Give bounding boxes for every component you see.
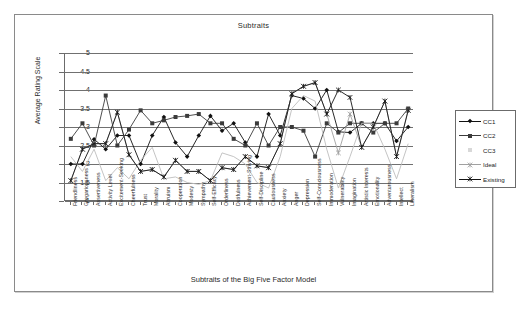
x-axis-tick	[70, 201, 71, 205]
x-axis-tick	[384, 201, 385, 205]
legend-item-label: CC3	[483, 147, 495, 154]
legend-item-ideal[interactable]: Ideal	[459, 158, 515, 173]
x-axis-category-label: Morality	[153, 187, 159, 206]
x-axis-category-label: Altruism	[165, 186, 171, 206]
y-axis-title: Average Rating Scale	[34, 36, 41, 146]
series-cc2	[69, 94, 410, 159]
x-axis-tick	[314, 201, 315, 205]
x-axis-category-label: Cautiousness	[270, 173, 276, 206]
legend-item-cc3[interactable]: CC3	[459, 143, 515, 158]
x-axis-tick	[233, 201, 234, 205]
x-axis-category-label: Self-Discipline	[258, 172, 264, 206]
x-axis-category-label: Emotionality	[374, 177, 380, 206]
x-axis-tick	[268, 201, 269, 205]
x-axis-category-label: Modesty	[188, 186, 194, 206]
x-axis-category-label: Cheerfulness	[130, 174, 136, 206]
x-axis-category-label: Immoderation	[328, 173, 334, 206]
x-axis-tick	[140, 201, 141, 205]
x-axis-category-label: Activity Level	[107, 174, 113, 206]
chart-frame: Subtraits Average Rating Scale 54.543.53…	[14, 14, 493, 292]
x-axis-tick	[349, 201, 350, 205]
x-axis-category-label: Assertiveness	[95, 172, 101, 206]
chart-legend: CC1CC2CC3IdealExisting	[455, 110, 516, 188]
legend-item-label: Existing	[483, 176, 505, 183]
x-axis-category-label: Anxiety	[281, 188, 287, 206]
legend-item-label: Ideal	[483, 161, 496, 168]
y-axis-tick	[59, 201, 64, 202]
series-cc1	[69, 88, 411, 167]
x-axis-tick	[198, 201, 199, 205]
x-axis-tick	[93, 201, 94, 205]
x-axis-category-label: Achievement-Striving	[246, 155, 252, 206]
x-axis-category-label: Artistic Interests	[363, 167, 369, 206]
x-axis-tick	[163, 201, 164, 205]
x-axis-category-label: Imagination	[351, 178, 357, 206]
x-axis-category-label: Friendliness	[72, 177, 78, 206]
x-axis-category-label: Sympathy	[200, 182, 206, 206]
x-axis-tick	[396, 201, 397, 205]
x-axis-tick	[326, 201, 327, 205]
x-axis-category-label: Cooperation	[177, 177, 183, 206]
legend-key-icon	[459, 116, 481, 126]
x-axis-category-label: Liberalism	[409, 181, 415, 206]
legend-item-cc1[interactable]: CC1	[459, 114, 515, 129]
x-axis-category-label: Excitement-Seeking	[118, 158, 124, 206]
x-axis-tick	[221, 201, 222, 205]
x-axis-tick	[128, 201, 129, 205]
x-axis-category-label: Intellect	[398, 187, 404, 206]
x-axis-category-label: Trust	[142, 194, 148, 206]
x-axis-tick	[105, 201, 106, 205]
legend-item-cc2[interactable]: CC2	[459, 129, 515, 144]
x-axis-tick	[291, 201, 292, 205]
legend-key-icon	[459, 160, 481, 170]
legend-item-label: CC1	[483, 118, 495, 125]
legend-key-icon	[459, 145, 481, 155]
x-axis-category-label: Orderliness	[223, 178, 229, 206]
x-axis-tick	[361, 201, 362, 205]
x-axis-category-label: Vulnerability	[339, 177, 345, 206]
x-axis-category-label: Self-Consciousness	[316, 158, 322, 206]
x-axis-tick	[175, 201, 176, 205]
x-axis-title: Subtraits of the Big Five Factor Model	[15, 275, 492, 284]
x-axis-category-label: Dutifulness	[235, 179, 241, 206]
x-axis-tick	[256, 201, 257, 205]
legend-key-icon	[459, 131, 481, 141]
x-axis-category-label: Depression	[304, 179, 310, 206]
x-axis-tick	[186, 201, 187, 205]
legend-key-icon	[459, 174, 481, 184]
x-axis-category-label: Anger	[293, 192, 299, 206]
x-axis-category-label: Gregariousness	[83, 168, 89, 206]
x-axis-category-label: Adventurousness	[386, 164, 392, 206]
legend-item-label: CC2	[483, 132, 495, 139]
chart-title: Subtraits	[15, 21, 492, 30]
x-axis-category-label: Self-Efficacy	[211, 176, 217, 206]
legend-item-existing[interactable]: Existing	[459, 172, 515, 187]
